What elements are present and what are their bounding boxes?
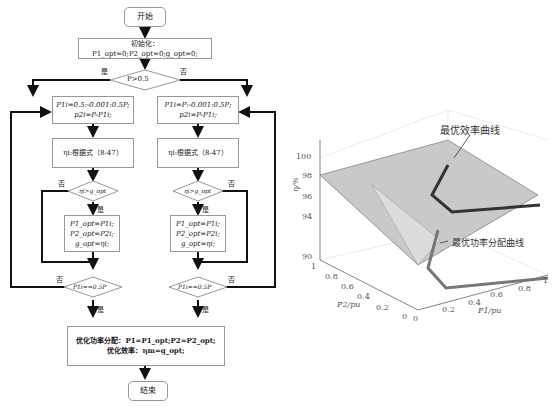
init-box: 初始化：P1_opt=0;P2_opt=0;g_opt=0; — [78, 38, 212, 59]
right-loop-init-box: P1i=P:-0.001:0.5P;p2i=P-P1i; — [157, 96, 239, 124]
yes-label: 是 — [101, 66, 108, 76]
right-loop-line-1: P1i=P:-0.001:0.5P; — [165, 100, 232, 110]
y-tick-0: 0 — [402, 312, 407, 321]
left-update-box: P1_opt=P1i;P2_opt=P2i;g_opt=ηi; — [64, 215, 120, 252]
y-axis-label: P2/pu — [337, 300, 360, 309]
axes — [320, 140, 548, 310]
right-end-yes: 是 — [202, 304, 209, 314]
chart-box-frame — [320, 110, 548, 275]
z-axis-label: η/% — [291, 177, 300, 192]
result-line-1: 优化功率分配：P1=P1_opt;P2=P2_opt; — [76, 336, 215, 346]
right-eta-decision-label: ηi>g_opt — [184, 187, 211, 194]
result-line-2: 优化效率：ηm=g_opt; — [76, 346, 215, 356]
right-end-no: 否 — [228, 274, 235, 284]
left-eta-no: 否 — [58, 178, 65, 188]
left-update-2: P2_opt=P2i; — [70, 229, 114, 239]
y-tick-1: 1 — [311, 262, 316, 271]
left-eta-decision-label: ηi>g_opt — [79, 187, 106, 194]
z-tick-96: 96 — [302, 192, 312, 201]
right-loop-line-2: p2i=P-P1i; — [165, 110, 232, 120]
decision-p-label: P>0.5 — [127, 75, 149, 83]
efficiency-curve-annotation: 最优效率曲线 — [440, 122, 500, 137]
y-tick-0.2: 0.2 — [376, 303, 389, 312]
init-label: 初始化：P1_opt=0;P2_opt=0;g_opt=0; — [79, 39, 211, 59]
left-end-decision-label: P1i==0.5P — [73, 283, 106, 290]
x-tick-1: 1 — [543, 276, 548, 285]
result-box: 优化功率分配：P1=P1_opt;P2=P2_opt;优化效率：ηm=g_opt… — [67, 326, 225, 366]
left-end-yes: 是 — [97, 304, 104, 314]
start-terminal: 开始 — [124, 7, 166, 27]
z-tick-90: 90 — [302, 252, 312, 261]
right-eta-calc-box: ηi:根据式（8-47） — [157, 138, 239, 168]
right-update-box: P1_opt=P1i;P2_opt=P2i;g_opt=ηi; — [170, 215, 226, 252]
power-annotation-arrow — [440, 241, 448, 243]
left-loop-init-box: P1i=0.5:-0.001:0.5P;p2i=P-P1i; — [52, 96, 134, 124]
surface-fold — [372, 185, 440, 265]
left-eta-yes: 是 — [97, 204, 104, 214]
x-tick-0: 0 — [413, 314, 418, 323]
right-end-decision-label: P1i==0.5P — [178, 283, 211, 290]
x-tick-0.8: 0.8 — [518, 284, 531, 293]
right-eta-yes: 是 — [202, 204, 209, 214]
left-eta-calc-box: ηi:根据式（8-47） — [52, 138, 134, 168]
x-tick-0.6: 0.6 — [490, 290, 503, 299]
left-update-3: g_opt=ηi; — [70, 239, 114, 249]
efficiency-annotation-arrow — [454, 135, 470, 158]
left-loop-line-1: P1i=0.5:-0.001:0.5P; — [56, 100, 129, 110]
no-label: 否 — [180, 66, 187, 76]
z-tick-100: 100 — [296, 152, 311, 161]
right-update-1: P1_opt=P1i; — [176, 219, 220, 229]
right-eta-no: 否 — [228, 178, 235, 188]
left-end-no: 否 — [56, 274, 63, 284]
start-label: 开始 — [137, 12, 153, 22]
right-eta-label: ηi:根据式（8-47） — [168, 148, 228, 158]
y-tick-0.8: 0.8 — [325, 272, 338, 281]
end-terminal: 结束 — [128, 381, 168, 401]
x-axis-label: P1/pu — [478, 306, 501, 315]
right-update-2: P2_opt=P2i; — [176, 229, 220, 239]
end-label: 结束 — [140, 386, 156, 396]
left-update-1: P1_opt=P1i; — [70, 219, 114, 229]
left-loop-line-2: p2i=P-P1i; — [56, 110, 129, 120]
z-tick-98: 98 — [302, 171, 312, 180]
right-update-3: g_opt=ηi; — [176, 239, 220, 249]
power-curve-annotation: 最优功率分配曲线 — [452, 236, 524, 249]
optimal-efficiency-curve — [432, 165, 540, 212]
y-tick-0.6: 0.6 — [341, 282, 354, 291]
left-eta-label: ηi:根据式（8-47） — [63, 148, 123, 158]
x-tick-0.2: 0.2 — [442, 305, 455, 314]
z-tick-94: 94 — [302, 212, 312, 221]
